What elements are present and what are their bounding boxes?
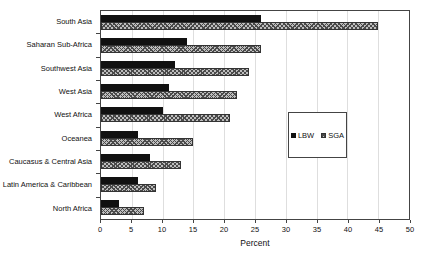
lbw-bar <box>101 107 163 114</box>
x-axis-tick-label: 15 <box>189 225 197 234</box>
x-axis-tick-label: 25 <box>251 225 259 234</box>
sga-bar <box>101 91 237 99</box>
x-axis-tick <box>255 220 256 223</box>
lbw-bar <box>101 200 119 207</box>
bar-group <box>101 34 409 57</box>
bar-group <box>101 196 409 219</box>
x-axis-tick <box>348 220 349 223</box>
sga-bar <box>101 68 249 76</box>
lbw-bar <box>101 84 169 91</box>
y-axis-tick <box>96 80 100 81</box>
x-axis-tick-label: 50 <box>406 225 414 234</box>
sga-bar <box>101 161 181 169</box>
sga-bar <box>101 22 378 30</box>
lbw-bar <box>101 38 187 45</box>
y-axis-tick <box>96 150 100 151</box>
x-axis-tick-label: 20 <box>220 225 228 234</box>
x-axis-tick-label: 0 <box>98 225 102 234</box>
sga-legend-label: SGA <box>328 131 344 140</box>
y-axis-tick <box>96 197 100 198</box>
category-label: Oceanea <box>62 135 96 143</box>
x-axis-tick <box>100 220 101 223</box>
x-axis-title: Percent <box>100 238 410 248</box>
lbw-legend-marker-icon <box>291 133 296 138</box>
y-axis-tick <box>96 57 100 58</box>
sga-bar <box>101 114 230 122</box>
x-axis-tick <box>162 220 163 223</box>
x-axis-tick <box>131 220 132 223</box>
category-label-row: Latin America & Caribbean <box>0 173 96 196</box>
x-axis-tick-label: 45 <box>375 225 383 234</box>
y-axis-tick <box>96 103 100 104</box>
category-label: Latin America & Caribbean <box>3 181 96 189</box>
legend-box: LBW SGA <box>288 112 347 158</box>
sga-bar <box>101 207 144 215</box>
x-axis-tick-label: 35 <box>313 225 321 234</box>
legend-item-lbw: LBW <box>291 131 314 140</box>
category-label-row: West Africa <box>0 103 96 126</box>
y-axis-tick <box>96 173 100 174</box>
lbw-bar <box>101 131 138 138</box>
x-axis-tick <box>379 220 380 223</box>
bar-group <box>101 11 409 34</box>
bar-group <box>101 150 409 173</box>
x-axis-tick-label: 30 <box>282 225 290 234</box>
x-axis-tick <box>286 220 287 223</box>
bar-chart-figure: South AsiaSaharan Sub-AfricaSouthwest As… <box>0 0 428 256</box>
bar-group <box>101 80 409 103</box>
category-label: South Asia <box>56 18 96 26</box>
y-axis-category-labels: South AsiaSaharan Sub-AfricaSouthwest As… <box>0 10 96 220</box>
sga-legend-marker-icon <box>321 133 326 138</box>
x-axis-tick <box>410 220 411 223</box>
sga-bar <box>101 184 156 192</box>
category-label-row: North Africa <box>0 197 96 220</box>
x-axis-tick <box>224 220 225 223</box>
bar-group <box>101 103 409 126</box>
legend-item-sga: SGA <box>321 131 344 140</box>
sga-bar <box>101 138 193 146</box>
lbw-bar <box>101 15 261 22</box>
category-label-row: Caucasus & Central Asia <box>0 150 96 173</box>
category-label: Caucasus & Central Asia <box>9 158 96 166</box>
category-label: West Africa <box>54 111 96 119</box>
category-label-row: Oceanea <box>0 127 96 150</box>
category-label-row: Southwest Asia <box>0 57 96 80</box>
bar-group <box>101 57 409 80</box>
y-axis-tick <box>96 33 100 34</box>
lbw-legend-label: LBW <box>298 131 314 140</box>
category-label: West Asia <box>59 88 96 96</box>
bar-group <box>101 173 409 196</box>
lbw-bar <box>101 177 138 184</box>
sga-bar <box>101 45 261 53</box>
category-label: Saharan Sub-Africa <box>27 41 96 49</box>
lbw-bar <box>101 154 150 161</box>
category-label-row: South Asia <box>0 10 96 33</box>
bar-group <box>101 127 409 150</box>
y-axis-tick <box>96 127 100 128</box>
category-label: Southwest Asia <box>41 65 96 73</box>
lbw-bar <box>101 61 175 68</box>
category-label-row: Saharan Sub-Africa <box>0 33 96 56</box>
x-axis-tick <box>193 220 194 223</box>
bar-rows <box>101 11 409 219</box>
plot-area: LBW SGA <box>100 10 410 220</box>
category-label: North Africa <box>53 205 96 213</box>
x-axis-tick <box>317 220 318 223</box>
category-label-row: West Asia <box>0 80 96 103</box>
x-axis-tick-label: 5 <box>129 225 133 234</box>
x-axis-tick-label: 40 <box>344 225 352 234</box>
x-axis-tick-label: 10 <box>158 225 166 234</box>
